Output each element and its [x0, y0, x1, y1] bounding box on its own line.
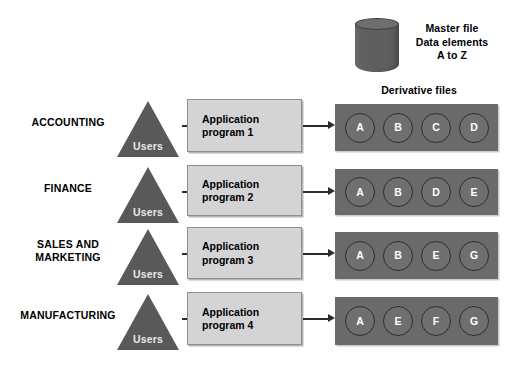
arrow-program-1-to-files: [303, 121, 335, 130]
diagram-row-finance: FINANCE Users Application program 2 A B …: [0, 164, 506, 224]
file-circle: A: [345, 177, 375, 207]
file-circle: B: [383, 113, 413, 143]
program-line2: program 3: [202, 253, 259, 267]
derivative-files-box-4: A E F G: [335, 297, 498, 345]
derivative-files-label: Derivative files: [336, 84, 502, 96]
file-circle: E: [459, 177, 489, 207]
application-program-box-2: Application program 2: [187, 165, 302, 216]
arrow-head: [328, 249, 335, 257]
application-program-label-1: Application program 1: [202, 112, 259, 139]
department-label-accounting: ACCOUNTING: [2, 116, 134, 129]
file-circle: D: [459, 113, 489, 143]
program-line1: Application: [202, 177, 259, 191]
department-label-finance: FINANCE: [2, 182, 134, 195]
traditional-file-processing-diagram: Master file Data elements A to Z Derivat…: [0, 0, 506, 366]
database-cylinder-icon: [355, 18, 399, 72]
users-label: Users: [117, 206, 179, 218]
application-program-label-4: Application program 4: [202, 305, 259, 332]
program-line2: program 4: [202, 319, 259, 333]
diagram-row-manufacturing: MANUFACTURING Users Application program …: [0, 291, 506, 351]
arrow-shaft: [303, 253, 328, 255]
file-circle: A: [345, 306, 375, 336]
application-program-box-1: Application program 1: [187, 99, 302, 152]
department-label-line: MARKETING: [2, 251, 134, 264]
file-circle: G: [459, 306, 489, 336]
derivative-files-box-1: A B C D: [335, 104, 498, 151]
application-program-label-2: Application program 2: [202, 177, 259, 204]
cylinder-top-ellipse: [355, 18, 399, 30]
file-circle: E: [421, 241, 451, 271]
program-line2: program 2: [202, 191, 259, 205]
master-file-label-line3: A to Z: [402, 49, 502, 63]
users-label: Users: [117, 268, 179, 280]
file-circle: C: [421, 113, 451, 143]
application-program-label-3: Application program 3: [202, 240, 259, 267]
users-triangle-sales-and-marketing: Users: [117, 229, 179, 285]
application-program-box-3: Application program 3: [187, 227, 302, 279]
arrow-shaft: [303, 125, 328, 127]
department-label-line: ACCOUNTING: [2, 116, 134, 129]
program-line1: Application: [202, 305, 259, 319]
program-line2: program 1: [202, 126, 259, 140]
arrow-shaft: [303, 191, 328, 193]
program-line1: Application: [202, 112, 259, 126]
file-circle: G: [459, 241, 489, 271]
users-label: Users: [117, 333, 179, 345]
arrow-program-3-to-files: [303, 249, 335, 258]
file-circle: D: [421, 177, 451, 207]
arrow-program-2-to-files: [303, 187, 335, 196]
department-label-line: FINANCE: [2, 182, 134, 195]
arrow-shaft: [303, 318, 328, 320]
program-line1: Application: [202, 240, 259, 254]
master-file-label-line2: Data elements: [402, 36, 502, 50]
file-circle: A: [345, 113, 375, 143]
file-circle: E: [383, 306, 413, 336]
derivative-files-box-3: A B E G: [335, 232, 498, 279]
arrow-head: [328, 187, 335, 195]
file-circle: A: [345, 241, 375, 271]
department-label-sales-and-marketing: SALES AND MARKETING: [2, 238, 134, 263]
application-program-box-4: Application program 4: [187, 292, 302, 345]
users-triangle-accounting: Users: [117, 101, 179, 157]
derivative-files-box-2: A B D E: [335, 169, 498, 215]
master-file-label: Master file Data elements A to Z: [402, 22, 502, 63]
arrow-head: [328, 121, 335, 129]
file-circle: B: [383, 177, 413, 207]
arrow-head: [328, 314, 335, 322]
file-circle: F: [421, 306, 451, 336]
users-label: Users: [117, 140, 179, 152]
users-triangle-manufacturing: Users: [117, 294, 179, 350]
users-triangle-finance: Users: [117, 167, 179, 223]
diagram-row-sales-and-marketing: SALES AND MARKETING Users Application pr…: [0, 226, 506, 286]
diagram-row-accounting: ACCOUNTING Users Application program 1 A…: [0, 98, 506, 158]
department-label-line: SALES AND: [2, 238, 134, 251]
file-circle: B: [383, 241, 413, 271]
arrow-program-4-to-files: [303, 314, 335, 323]
cylinder-body: [355, 24, 399, 72]
master-file-label-line1: Master file: [402, 22, 502, 36]
